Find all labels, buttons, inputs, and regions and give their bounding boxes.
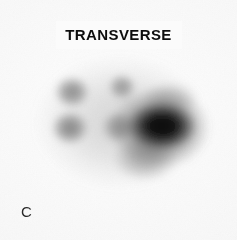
scintigram-figure: TRANSVERSE C: [0, 0, 237, 240]
page-title: TRANSVERSE: [0, 26, 237, 43]
hotspot-left-inferior-focus: [50, 110, 90, 146]
panel-label: C: [21, 203, 32, 220]
hotspot-right-dominant-core: [126, 101, 198, 151]
hotspot-left-superior-focus: [53, 75, 91, 109]
